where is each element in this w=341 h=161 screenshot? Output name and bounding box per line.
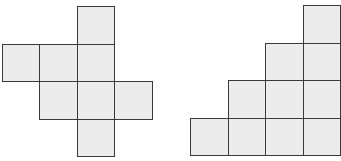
square-cell	[303, 118, 341, 157]
square-cell	[39, 81, 78, 120]
square-cell	[2, 44, 41, 83]
square-cell	[77, 44, 116, 83]
square-cell	[228, 80, 267, 119]
square-cell	[190, 118, 229, 157]
square-cell	[303, 80, 341, 119]
square-cell	[265, 43, 304, 82]
square-cell	[77, 119, 116, 158]
square-cell	[265, 118, 304, 157]
square-cell	[228, 118, 267, 157]
square-cell	[114, 81, 153, 120]
square-cell	[77, 81, 116, 120]
square-cell	[265, 80, 304, 119]
square-cell	[77, 6, 116, 45]
square-cell	[303, 43, 341, 82]
square-cell	[39, 44, 78, 83]
square-cell	[303, 5, 341, 44]
